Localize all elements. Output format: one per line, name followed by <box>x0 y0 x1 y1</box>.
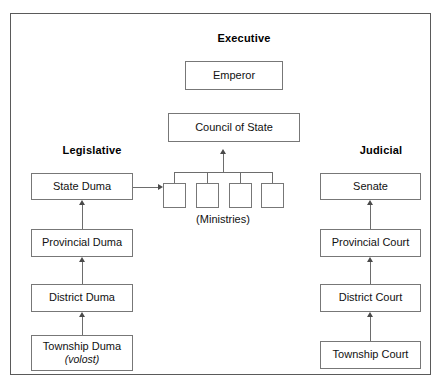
node-township-duma-sublabel: (volost) <box>65 353 99 366</box>
connector-township-to-district-court-arrowhead <box>367 312 373 317</box>
ministry-riser-1 <box>174 172 175 183</box>
node-township-duma-label: Township Duma <box>43 340 121 354</box>
connector-provincial-to-senate-arrowhead <box>367 200 373 205</box>
node-district-court[interactable]: District Court <box>320 284 421 312</box>
ministry-riser-2 <box>207 172 208 183</box>
node-emperor-label: Emperor <box>213 69 255 83</box>
connector-district-to-provincial-court-line <box>370 262 371 284</box>
connector-district-to-provincial-court-arrowhead <box>367 257 373 262</box>
ministry-riser-4 <box>272 172 273 183</box>
node-provincial-court-label: Provincial Court <box>332 236 410 250</box>
ministry-riser-3 <box>240 172 241 183</box>
column-heading-executive: Executive <box>184 32 304 44</box>
node-district-court-label: District Court <box>339 291 403 305</box>
diagram-canvas: Executive Legislative Judicial Emperor C… <box>0 0 443 388</box>
node-provincial-duma[interactable]: Provincial Duma <box>31 229 133 257</box>
node-state-duma[interactable]: State Duma <box>31 173 133 200</box>
node-township-duma[interactable]: Township Duma (volost) <box>31 335 133 371</box>
node-district-duma[interactable]: District Duma <box>31 284 133 312</box>
ministries-caption: (Ministries) <box>173 213 273 225</box>
column-heading-judicial: Judicial <box>321 144 441 156</box>
node-council-of-state-label: Council of State <box>195 121 273 135</box>
node-township-court[interactable]: Township Court <box>320 341 421 369</box>
ministries-bus-line <box>174 172 273 173</box>
node-council-of-state[interactable]: Council of State <box>168 113 300 142</box>
connector-state-duma-to-ministries-line <box>133 187 158 188</box>
node-provincial-duma-label: Provincial Duma <box>42 236 122 250</box>
connector-provincial-to-state-duma-line <box>82 205 83 229</box>
connector-district-to-provincial-duma-arrowhead <box>79 257 85 262</box>
node-senate-label: Senate <box>353 180 388 194</box>
ministry-box-4[interactable] <box>261 183 284 208</box>
connector-township-to-district-duma-arrowhead <box>79 312 85 317</box>
connector-district-to-provincial-duma-line <box>82 262 83 284</box>
ministry-box-2[interactable] <box>196 183 219 208</box>
diagram-frame: Executive Legislative Judicial Emperor C… <box>10 13 431 375</box>
connector-ministries-to-council-line <box>223 154 224 172</box>
connector-township-to-district-duma-line <box>82 317 83 335</box>
ministry-box-3[interactable] <box>229 183 252 208</box>
node-emperor[interactable]: Emperor <box>185 61 283 90</box>
connector-state-duma-to-ministries-arrowhead <box>158 184 163 190</box>
connector-provincial-to-senate-line <box>370 205 371 229</box>
node-provincial-court[interactable]: Provincial Court <box>320 229 421 257</box>
node-senate[interactable]: Senate <box>320 173 421 200</box>
connector-provincial-to-state-duma-arrowhead <box>79 200 85 205</box>
connector-ministries-to-council-arrowhead <box>220 149 226 154</box>
node-district-duma-label: District Duma <box>49 291 115 305</box>
node-state-duma-label: State Duma <box>53 180 111 194</box>
connector-township-to-district-court-line <box>370 317 371 341</box>
column-heading-legislative: Legislative <box>32 144 152 156</box>
ministry-box-1[interactable] <box>163 183 186 208</box>
node-township-court-label: Township Court <box>333 348 409 362</box>
